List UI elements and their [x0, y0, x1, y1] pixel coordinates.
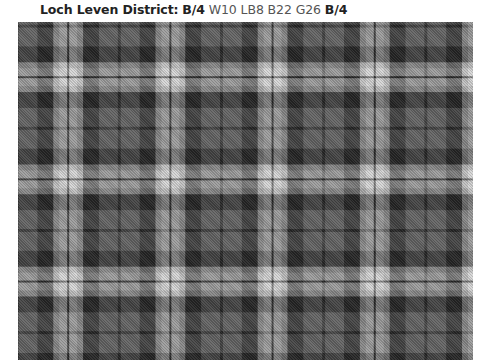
tartan-name: Loch Leven District:	[40, 2, 178, 17]
sett-pivot-end: B/4	[325, 2, 348, 17]
tartan-pattern	[18, 22, 473, 360]
sett-pivot-start: B/4	[182, 2, 205, 17]
sett-threadcount: W10 LB8 B22 G26	[209, 2, 321, 17]
tartan-title: Loch Leven District: B/4 W10 LB8 B22 G26…	[40, 2, 347, 20]
tartan-weft-layer	[18, 22, 473, 360]
